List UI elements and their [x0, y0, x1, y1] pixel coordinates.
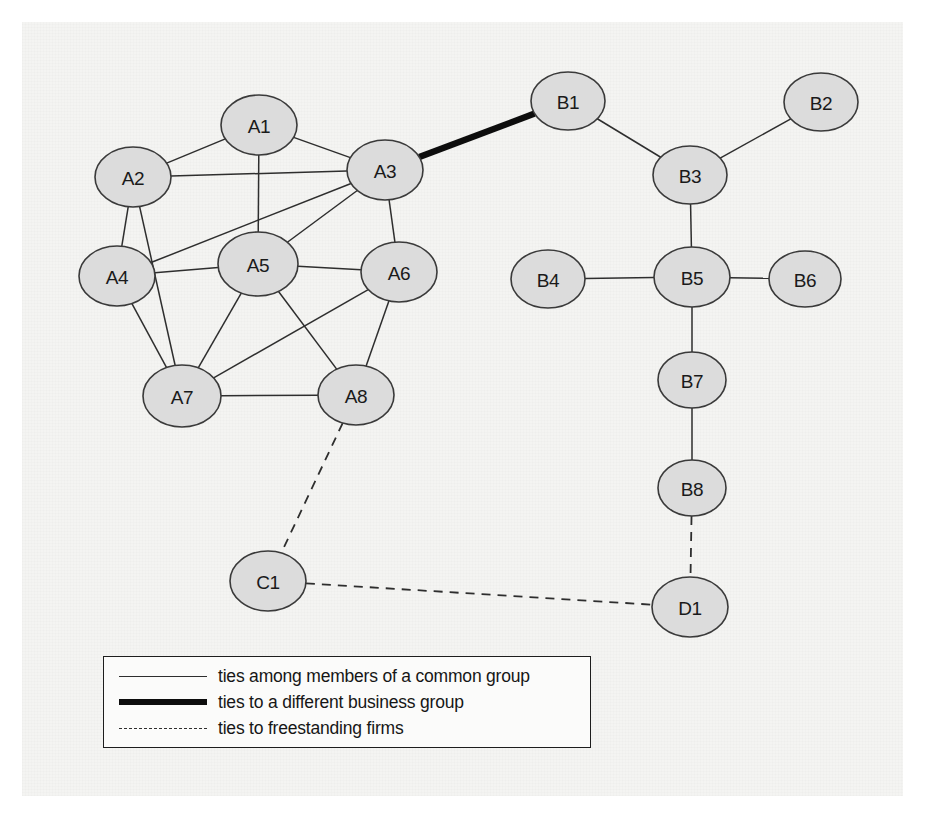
edge-a3-b1 [419, 114, 534, 158]
node-label-b7: B7 [681, 371, 704, 392]
edge-a1-a2 [167, 139, 226, 163]
node-label-b6: B6 [794, 270, 817, 291]
node-b1[interactable]: B1 [531, 72, 605, 130]
edge-a6-a8 [366, 301, 389, 366]
node-label-a3: A3 [374, 161, 397, 182]
node-a7[interactable]: A7 [143, 365, 221, 427]
node-b3[interactable]: B3 [653, 146, 727, 204]
edge-b4-b5 [585, 278, 654, 279]
node-a2[interactable]: A2 [95, 147, 171, 207]
node-label-c1: C1 [256, 572, 280, 593]
edge-b2-b3 [720, 119, 791, 158]
node-c1[interactable]: C1 [230, 551, 306, 611]
node-b5[interactable]: B5 [654, 247, 730, 307]
legend-item-different: ties to a different business group [104, 689, 590, 715]
edge-a7-a8 [221, 395, 318, 396]
edge-a3-a5 [287, 191, 357, 243]
node-a6[interactable]: A6 [361, 242, 437, 302]
node-label-a4: A4 [106, 267, 129, 288]
node-label-a5: A5 [247, 255, 270, 276]
edge-c1-d1 [306, 583, 652, 604]
legend-swatch-common-tie-icon [119, 669, 207, 683]
edge-a5-a6 [298, 266, 361, 270]
legend-item-freestanding: ties to freestanding firms [104, 715, 590, 741]
node-label-a8: A8 [345, 386, 368, 407]
node-b6[interactable]: B6 [769, 251, 841, 307]
edge-a6-a7 [214, 290, 369, 378]
legend-label-freestanding: ties to freestanding firms [218, 718, 403, 739]
legend-label-different: ties to a different business group [218, 692, 464, 713]
node-a4[interactable]: A4 [79, 246, 155, 306]
node-label-a1: A1 [248, 116, 271, 137]
edge-b1-b3 [597, 119, 660, 158]
node-d1[interactable]: D1 [652, 577, 728, 637]
node-b8[interactable]: B8 [658, 460, 726, 516]
network-diagram-figure: A1A2A3A4A5A6A7A8B1B2B3B4B5B6B7B8C1D1 tie… [0, 0, 925, 818]
edge-a1-a3 [294, 137, 351, 157]
node-label-a2: A2 [122, 168, 145, 189]
edge-a5-a7 [198, 293, 241, 368]
node-label-b1: B1 [557, 92, 580, 113]
node-a5[interactable]: A5 [218, 232, 298, 296]
node-b4[interactable]: B4 [511, 250, 585, 308]
node-label-b3: B3 [679, 166, 702, 187]
edge-a3-a6 [389, 200, 395, 242]
edge-b3-b5 [691, 204, 692, 247]
legend-item-common: ties among members of a common group [104, 663, 590, 689]
node-label-b5: B5 [681, 268, 704, 289]
edge-a4-a7 [132, 304, 167, 368]
edge-a5-a8 [279, 291, 337, 369]
node-layer: A1A2A3A4A5A6A7A8B1B2B3B4B5B6B7B8C1D1 [79, 72, 858, 637]
node-a8[interactable]: A8 [318, 365, 394, 425]
edge-a4-a5 [155, 267, 218, 272]
node-label-b4: B4 [537, 270, 560, 291]
edge-a8-c1 [281, 423, 342, 553]
node-label-a6: A6 [388, 263, 411, 284]
node-a1[interactable]: A1 [221, 95, 297, 155]
node-a3[interactable]: A3 [347, 140, 423, 200]
legend-label-common: ties among members of a common group [218, 666, 530, 687]
legend: ties among members of a common group tie… [103, 656, 591, 748]
edge-b5-b6 [730, 278, 769, 279]
node-label-a7: A7 [171, 387, 194, 408]
node-b7[interactable]: B7 [658, 352, 726, 408]
node-label-b2: B2 [810, 93, 833, 114]
edge-b8-d1 [691, 516, 692, 577]
legend-swatch-different-group-tie-icon [119, 695, 207, 709]
legend-swatch-freestanding-tie-icon [119, 721, 207, 735]
node-b2[interactable]: B2 [784, 73, 858, 131]
node-label-d1: D1 [678, 598, 702, 619]
node-label-b8: B8 [681, 479, 704, 500]
edge-a2-a4 [122, 207, 128, 246]
